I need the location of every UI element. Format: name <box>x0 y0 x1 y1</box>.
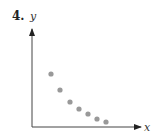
data-point <box>76 106 81 111</box>
data-point <box>103 119 108 124</box>
data-points <box>48 71 108 124</box>
x-axis-label: x <box>144 121 151 134</box>
y-axis-label: y <box>29 10 37 23</box>
data-point <box>48 71 53 76</box>
data-point <box>85 111 90 116</box>
scatter-plot: y x <box>0 0 165 140</box>
data-point <box>57 87 62 92</box>
data-point <box>67 99 72 104</box>
data-point <box>94 116 99 121</box>
